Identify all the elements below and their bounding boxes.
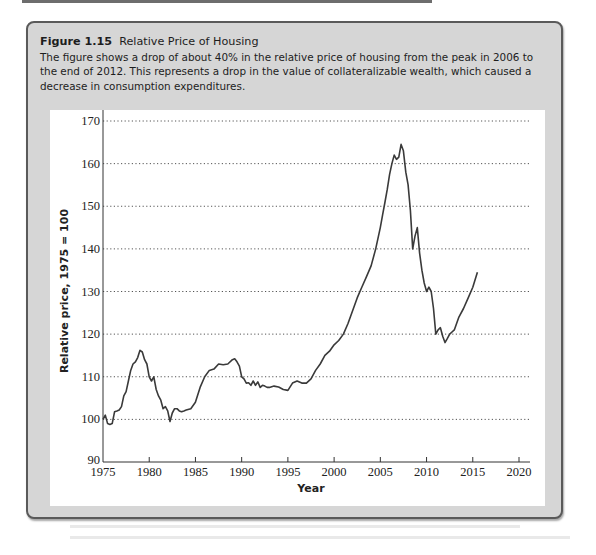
gridlines	[103, 121, 530, 419]
x-tick-labels: 1975198019851990199520002005201020152020	[91, 457, 532, 479]
x-tick-label: 1995	[275, 465, 300, 479]
y-tick-labels: 90100110120130140150160170	[81, 114, 100, 467]
x-tick-label: 2010	[414, 465, 439, 479]
y-tick-label: 130	[81, 285, 100, 299]
y-tick-label: 120	[81, 327, 100, 341]
y-tick-label: 140	[81, 242, 100, 256]
y-axis-title: Relative price, 1975 = 100	[58, 209, 71, 373]
y-tick-label: 160	[81, 157, 100, 171]
x-tick-label: 2015	[460, 465, 485, 479]
x-tick-label: 1990	[229, 465, 254, 479]
line-chart: 90100110120130140150160170 1975198019851…	[0, 0, 596, 555]
y-tick-label: 100	[81, 412, 100, 426]
series-line-housing-price	[103, 144, 477, 424]
y-tick-label: 150	[81, 199, 100, 213]
x-tick-label: 1975	[91, 465, 116, 479]
y-tick-label: 170	[81, 114, 100, 128]
background-page-text	[70, 525, 570, 555]
y-tick-label: 110	[82, 370, 100, 384]
x-tick-label: 1985	[183, 465, 208, 479]
x-tick-label: 2005	[368, 465, 393, 479]
x-tick-label: 1980	[137, 465, 162, 479]
x-tick-label: 2020	[507, 465, 532, 479]
x-axis-title: Year	[296, 482, 325, 495]
x-tick-label: 2000	[322, 465, 347, 479]
